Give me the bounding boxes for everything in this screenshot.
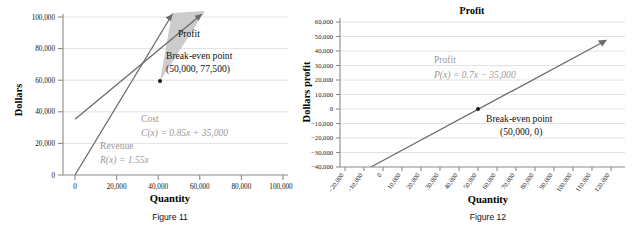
y-tick-label: 100,000 — [32, 14, 56, 22]
x-tick-label: 40,000 — [148, 183, 168, 191]
x-tick-label: −10,000 — [346, 171, 365, 193]
figures-container: 100,000 80,000 60,000 40,000 20,000 0 0 … — [0, 0, 640, 235]
profit-annotation: Profit — [178, 28, 200, 39]
profit-line — [371, 40, 607, 167]
figure-12-y-ticks: 60,000 50,000 40,000 30,000 20,000 10,00… — [311, 18, 340, 170]
revenue-label: Revenue — [100, 140, 134, 151]
y-tick-label: −20,000 — [311, 134, 334, 141]
x-tick-label: 0 — [73, 183, 77, 191]
revenue-equation: R(x) = 1.55x — [99, 154, 150, 166]
figure-12-x-axis-title: Quantity — [468, 194, 509, 205]
break-even-dot — [158, 79, 162, 83]
cost-equation: C(x) = 0.85x + 35,000 — [141, 127, 228, 139]
profit-label: Profit — [434, 54, 456, 65]
x-tick-label: 100,000 — [555, 171, 573, 193]
break-even-annotation: Break-even point — [486, 113, 553, 124]
y-tick-label: 0 — [51, 172, 55, 180]
figure-12-y-axis-title: Dollars profit — [301, 61, 312, 122]
profit-equation: P(x) = 0.7x − 35,000 — [433, 69, 516, 81]
figure-11-x-axis-title: Quantity — [150, 193, 191, 204]
y-tick-label: 20,000 — [315, 76, 334, 83]
x-tick-label: 30,000 — [424, 171, 441, 190]
x-tick-label: 120,000 — [593, 171, 611, 193]
x-tick-label: 110,000 — [574, 171, 592, 193]
x-tick-label: 50,000 — [462, 171, 479, 190]
figure-12-x-ticks: −20,000 −10,000 0 10,000 20,000 30,000 4… — [327, 167, 612, 193]
x-tick-label: 80,000 — [232, 183, 252, 191]
x-tick-label: 80,000 — [519, 171, 536, 190]
figure-11-x-ticks: 0 20,000 40,000 60,000 80,000 100,000 — [73, 175, 293, 191]
break-even-annotation: Break-even point — [166, 50, 233, 61]
y-tick-label: 0 — [330, 105, 334, 112]
figure-11-caption: Figure 11 — [152, 212, 188, 222]
y-tick-label: 20,000 — [35, 140, 55, 148]
y-tick-label: −30,000 — [311, 149, 334, 156]
x-tick-label: 100,000 — [269, 183, 293, 191]
break-even-coords-annotation: (50,000, 77,500) — [166, 63, 230, 75]
figure-11-y-ticks: 100,000 80,000 60,000 40,000 20,000 0 — [32, 14, 63, 180]
y-tick-label: 50,000 — [315, 33, 334, 40]
figure-11: 100,000 80,000 60,000 40,000 20,000 0 0 … — [0, 0, 300, 235]
y-tick-label: 30,000 — [315, 62, 334, 69]
figure-12: Profit 60,000 50,000 40,000 30,000 2 — [300, 0, 640, 235]
x-tick-label: 70,000 — [500, 171, 517, 190]
x-tick-label: 20,000 — [107, 183, 127, 191]
cost-label: Cost — [141, 113, 159, 124]
figure-12-caption: Figure 12 — [470, 212, 507, 222]
y-tick-label: 40,000 — [35, 108, 55, 116]
x-tick-label: 60,000 — [190, 183, 210, 191]
y-tick-label: 80,000 — [35, 45, 55, 53]
x-tick-label: 0 — [375, 171, 383, 178]
y-tick-label: 40,000 — [315, 47, 334, 54]
figure-12-gridlines — [340, 22, 625, 153]
x-tick-label: 20,000 — [405, 171, 422, 190]
figure-11-y-axis-title: Dollars — [13, 84, 24, 117]
figure-12-title: Profit — [460, 5, 485, 16]
x-tick-label: 60,000 — [481, 171, 498, 190]
break-even-coords-annotation: (50,000, 0) — [500, 126, 542, 138]
x-tick-label: −20,000 — [327, 171, 346, 193]
y-tick-label: 10,000 — [315, 91, 334, 98]
y-tick-label: −10,000 — [311, 120, 334, 127]
break-even-dot — [476, 107, 480, 111]
y-tick-label: −40,000 — [311, 163, 334, 170]
x-tick-label: 90,000 — [538, 171, 555, 190]
y-tick-label: 60,000 — [315, 18, 334, 25]
x-tick-label: 40,000 — [443, 171, 460, 190]
x-tick-label: 10,000 — [386, 171, 403, 190]
y-tick-label: 60,000 — [35, 77, 55, 85]
